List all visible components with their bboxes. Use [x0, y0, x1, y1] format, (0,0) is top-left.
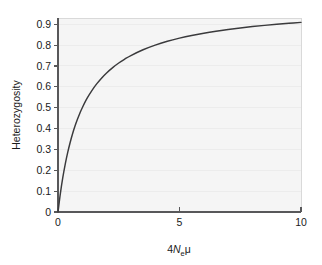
x-tick-label: 5 — [177, 216, 183, 228]
y-tick-label: 0.1 — [36, 185, 51, 197]
x-tick-label: 10 — [295, 216, 307, 228]
chart-figure: 00.10.20.30.40.50.60.70.80.9 0510 Hetero… — [0, 0, 322, 265]
y-tick-label: 0.4 — [36, 122, 51, 134]
y-tick-label: 0.2 — [36, 164, 51, 176]
y-tick-label: 0 — [45, 206, 51, 218]
y-tick-label: 0.6 — [36, 80, 51, 92]
heterozygosity-chart: 00.10.20.30.40.50.60.70.80.9 0510 Hetero… — [0, 0, 322, 265]
y-tick-label: 0.5 — [36, 101, 51, 113]
y-tick-label: 0.7 — [36, 60, 51, 72]
x-tick-label: 0 — [55, 216, 61, 228]
y-tick-label: 0.3 — [36, 143, 51, 155]
y-tick-label: 0.9 — [36, 18, 51, 30]
plot-background — [58, 18, 301, 212]
y-axis-title: Heterozygosity — [10, 80, 22, 150]
y-tick-label: 0.8 — [36, 39, 51, 51]
